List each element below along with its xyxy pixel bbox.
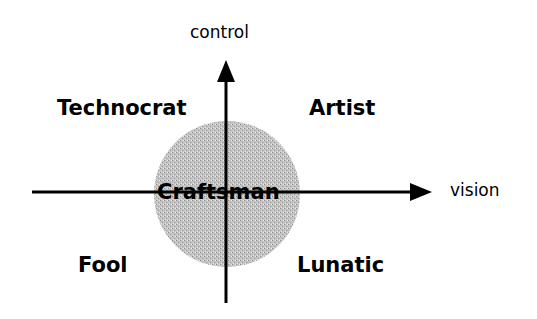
quadrant-bottom-left-label: Fool (78, 253, 128, 277)
right-arrowhead-icon (410, 183, 432, 201)
horizontal-axis-label: vision (450, 180, 500, 200)
quadrant-bottom-right-label: Lunatic (297, 253, 384, 277)
up-arrowhead-icon (217, 60, 235, 82)
vertical-axis-label: control (190, 22, 249, 42)
quadrant-top-right-label: Artist (309, 96, 375, 120)
quadrant-top-left-label: Technocrat (57, 96, 187, 120)
center-label: Craftsman (157, 180, 280, 204)
